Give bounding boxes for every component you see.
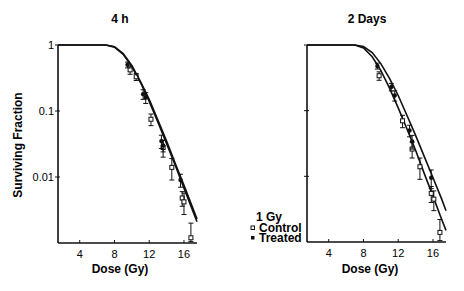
left-x-axis-label: Dose (Gy) xyxy=(92,262,149,276)
legend-treated-label: Treated xyxy=(259,231,302,245)
treated-data-point xyxy=(375,64,379,68)
treated-data-point xyxy=(125,63,129,67)
control-data-point xyxy=(418,165,422,169)
x-tick-label: 12 xyxy=(392,247,404,259)
x-tick-label: 16 xyxy=(178,248,190,260)
treated-data-point xyxy=(429,176,433,180)
x-tick-label: 16 xyxy=(427,247,439,259)
treated-data-point xyxy=(407,128,411,132)
control-data-point xyxy=(429,191,433,195)
y-tick-label: 0.01 xyxy=(33,171,54,183)
x-tick-label: 4 xyxy=(77,248,83,260)
fit-curve-control xyxy=(58,45,197,222)
fit-curve-control xyxy=(307,45,446,230)
control-marker-icon xyxy=(251,226,255,230)
y-tick-label: 1 xyxy=(48,39,54,51)
x-tick-label: 4 xyxy=(326,247,332,259)
treated-data-point xyxy=(178,178,182,182)
control-data-point xyxy=(189,236,193,240)
treated-data-point xyxy=(161,143,165,147)
control-data-point xyxy=(149,117,153,121)
control-data-point xyxy=(401,119,405,123)
control-data-point xyxy=(182,200,186,204)
treated-data-point xyxy=(389,85,393,89)
legend: 1 Gy Control Treated xyxy=(251,210,302,245)
x-tick-label: 8 xyxy=(111,248,117,260)
y-axis-label: Surviving Fraction xyxy=(11,92,25,197)
treated-data-point xyxy=(410,139,414,143)
left-panel-title: 4 h xyxy=(111,12,128,26)
treated-marker-icon xyxy=(251,236,255,240)
control-data-point xyxy=(377,74,381,78)
control-data-point xyxy=(432,197,436,201)
y-tick-label: 0.1 xyxy=(39,105,54,117)
left-plot-area: 48121610.10.01 xyxy=(33,39,197,260)
x-tick-label: 8 xyxy=(360,247,366,259)
right-x-axis-label: Dose (Gy) xyxy=(342,262,399,276)
right-panel-title: 2 Days xyxy=(348,12,387,26)
treated-data-point xyxy=(393,93,397,97)
fit-curve-treated xyxy=(307,45,446,211)
control-data-point xyxy=(438,230,442,234)
control-data-point xyxy=(170,165,174,169)
control-data-point xyxy=(128,68,132,72)
chart-canvas: 4 h Surviving Fraction Dose (Gy) 2 Days … xyxy=(0,0,464,291)
x-tick-label: 12 xyxy=(143,248,155,260)
fit-curve-treated xyxy=(58,45,197,219)
right-plot-area: 481216 xyxy=(304,45,446,259)
treated-data-point xyxy=(144,95,148,99)
